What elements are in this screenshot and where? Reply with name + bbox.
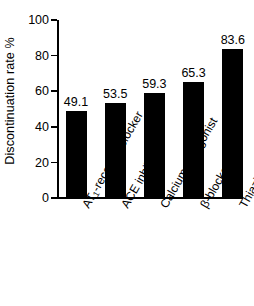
- bar-value-label: 83.6: [213, 34, 253, 47]
- y-axis-tick-label: 20: [0, 157, 49, 169]
- y-axis-tick-label-text: 80: [0, 50, 49, 63]
- y-axis-tick-mark: [51, 90, 57, 92]
- y-axis-tick-label: 80: [0, 50, 49, 62]
- y-axis-tick-label-text: 0: [0, 192, 49, 205]
- y-axis-tick-label: 40: [0, 121, 49, 133]
- y-axis-tick-label: 100: [0, 14, 49, 26]
- bar-value-label: 49.1: [56, 96, 96, 109]
- y-axis-tick-label: 60: [0, 85, 49, 97]
- bar-value-label: 59.3: [134, 78, 174, 91]
- y-axis-line: [57, 20, 59, 199]
- y-axis-tick-label-text: 20: [0, 157, 49, 170]
- y-axis-tick-label-text: 60: [0, 85, 49, 98]
- y-axis-tick-mark: [51, 55, 57, 57]
- y-axis-tick-label: 0: [0, 192, 49, 204]
- bar[interactable]: [66, 111, 87, 198]
- y-axis-tick-mark: [51, 126, 57, 128]
- bar-chart-figure: Discontinuation rate % 020406080100 49.1…: [0, 0, 254, 306]
- y-axis-title: Discontinuation rate %: [2, 2, 18, 200]
- y-axis-tick-mark: [51, 19, 57, 21]
- y-axis-tick-label-text: 40: [0, 121, 49, 134]
- y-axis-tick-mark: [51, 162, 57, 164]
- bar-value-label: 53.5: [95, 88, 135, 101]
- bar-value-label: 65.3: [174, 67, 214, 80]
- y-axis-tick-label-text: 100: [0, 14, 49, 27]
